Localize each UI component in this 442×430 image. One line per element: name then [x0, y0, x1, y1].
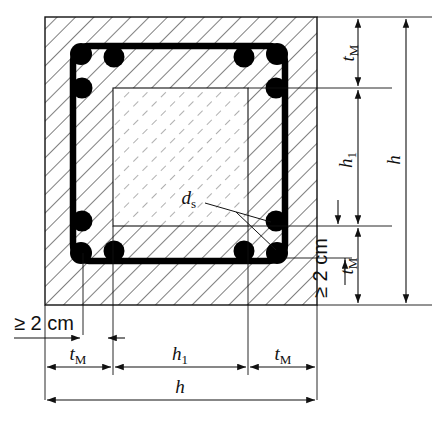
dimension-h1-horizontal: h1 [115, 343, 246, 367]
label-h1-vertical: h1 [335, 152, 359, 168]
rebar [70, 242, 92, 264]
rebar [266, 242, 288, 264]
label-h-vertical: h [383, 155, 404, 165]
dimension-h-vertical: h [383, 19, 406, 303]
label-cover-left: ≥ 2 cm [14, 312, 74, 334]
cross-section-drawing: ds tM h1 tM h [0, 0, 442, 430]
rebar [72, 78, 93, 99]
rebar [234, 47, 255, 68]
rebar [234, 241, 255, 262]
label-h-horizontal: h [175, 376, 185, 397]
dimension-tm-bottom: tM [336, 228, 360, 303]
dimension-tm-right: tM [250, 343, 315, 367]
label-tm-bottom: tM [336, 257, 360, 274]
label-tm-left: tM [70, 343, 87, 367]
figure-canvas: ds tM h1 tM h [0, 0, 442, 430]
label-tm-right: tM [275, 343, 292, 367]
dimension-tm-left: tM [47, 343, 111, 367]
rebar [72, 211, 93, 232]
rebar [104, 241, 125, 262]
dimension-tm-top: tM [337, 19, 361, 86]
label-h1-horizontal: h1 [172, 343, 188, 367]
label-tm-top: tM [337, 44, 361, 61]
dimension-h-horizontal: h [47, 376, 315, 400]
dimension-h1-vertical: h1 [335, 90, 359, 224]
rebar [70, 43, 92, 65]
rebar [104, 47, 125, 68]
label-cover-right: ≥ 2 cm [309, 238, 331, 298]
rebar [266, 43, 288, 65]
dimension-cover-left: ≥ 2 cm [14, 312, 125, 338]
